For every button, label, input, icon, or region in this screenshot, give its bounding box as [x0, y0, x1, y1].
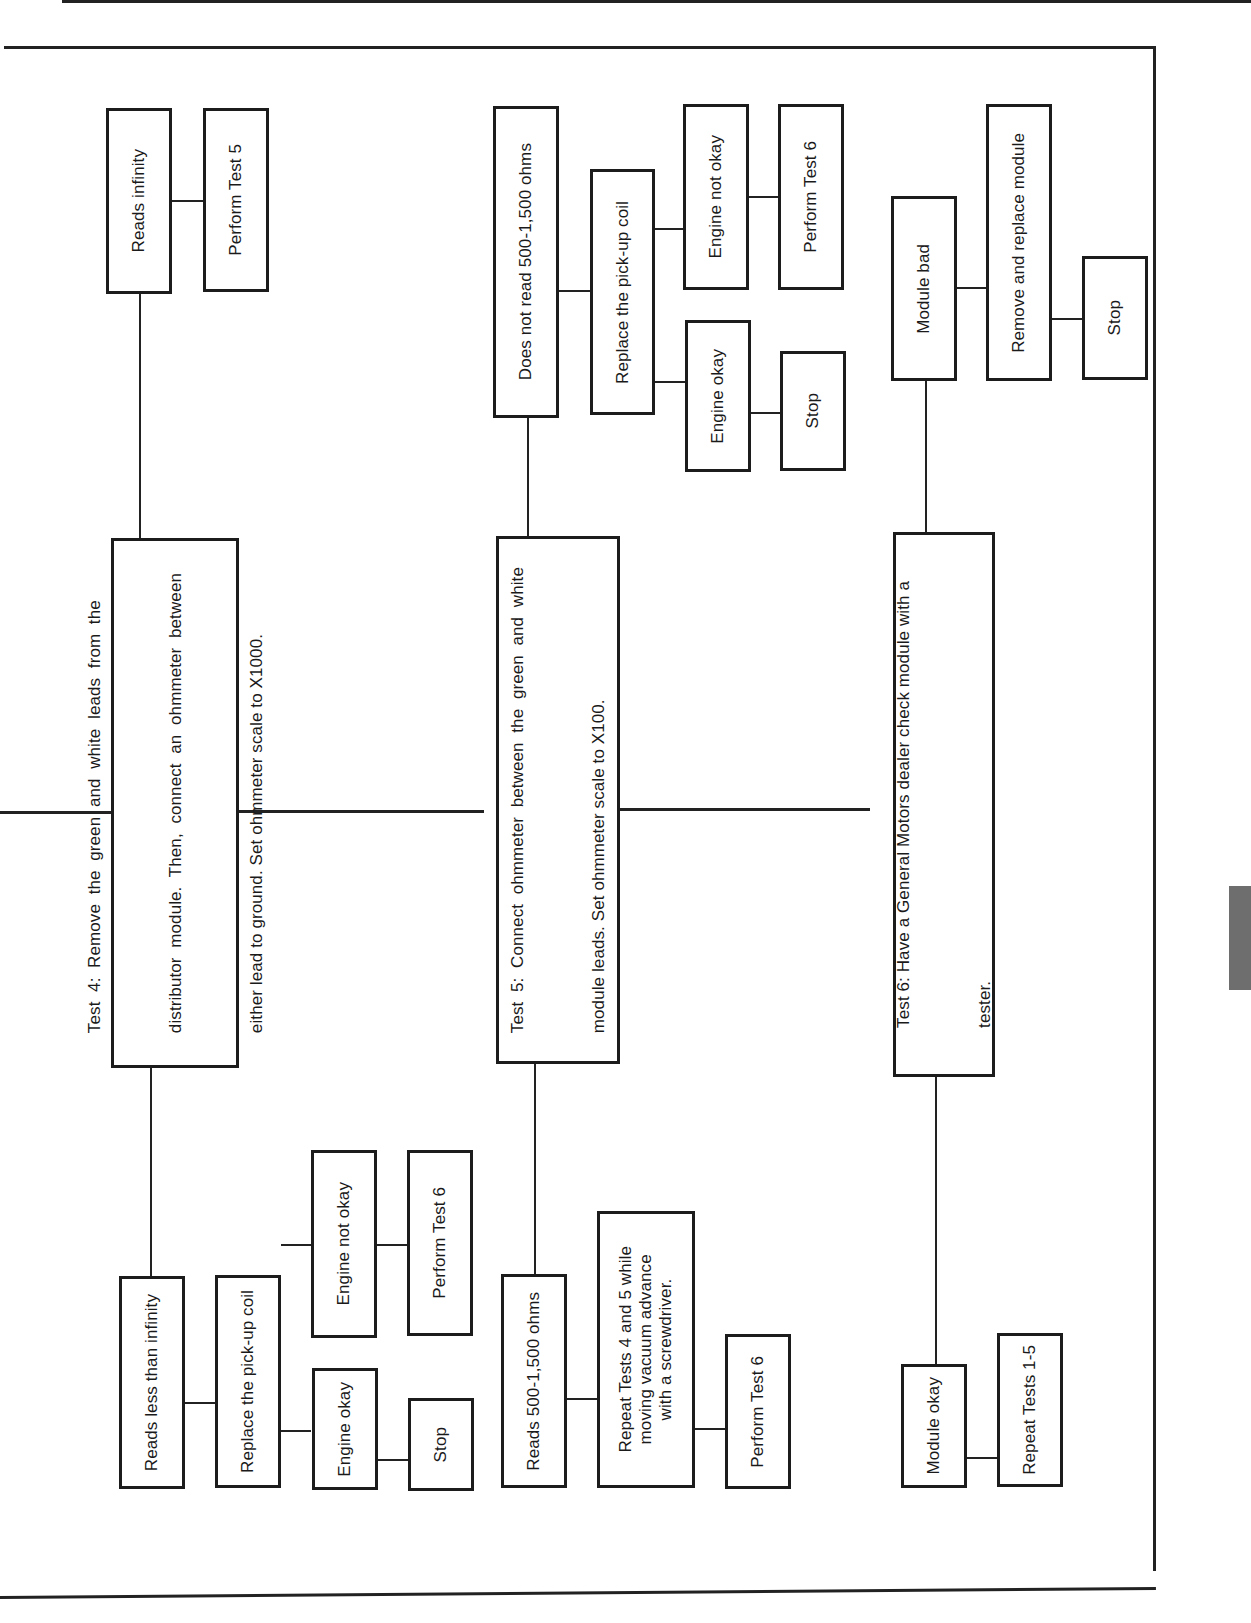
connector-engine-not-okay-perform6-1: [377, 1244, 407, 1246]
connector-test4-reads-less: [150, 1068, 152, 1276]
perform-test6-box-2: Perform Test 6: [778, 104, 844, 290]
test4-line-2: distributor module. Then, connect an ohm…: [162, 573, 189, 1033]
connector-module-okay-repeat: [967, 1457, 997, 1459]
test5-line-2: module leads. Set ohmmeter scale to X100…: [585, 567, 612, 1033]
does-not-read-label: Does not read 500-1,500 ohms: [513, 143, 539, 380]
engine-not-okay-box-2: Engine not okay: [683, 104, 749, 290]
replace-pickup-coil-box-2: Replace the pick-up coil: [590, 169, 655, 415]
repeat-tests-4-5-box: Repeat Tests 4 and 5 while moving vacuum…: [597, 1211, 695, 1488]
connector-does-not-read-replace: [559, 290, 590, 292]
connector-replace-engine-okay-1: [281, 1430, 311, 1432]
test4-line-1: Test 4: Remove the green and white leads…: [81, 573, 108, 1033]
connector-replace-engine-okay-2: [655, 381, 685, 383]
test6-box: Test 6: Have a General Motors dealer che…: [893, 532, 995, 1077]
test6-line-1: Test 6: Have a General Motors dealer che…: [890, 581, 917, 1028]
engine-not-okay-box-1: Engine not okay: [311, 1150, 377, 1338]
top-page-rule: [62, 0, 1251, 3]
perform-test5-label: Perform Test 5: [223, 144, 249, 256]
replace-pickup-coil-label-1: Replace the pick-up coil: [235, 1290, 261, 1473]
reads-ohms-box: Reads 500-1,500 ohms: [501, 1274, 567, 1488]
connector-remove-stop: [1052, 318, 1082, 320]
test5-box: Test 5: Connect ohmmeter between the gre…: [496, 536, 620, 1064]
reads-infinity-label: Reads infinity: [126, 149, 152, 252]
module-bad-box: Module bad: [891, 196, 957, 381]
frame-bottom-border: [0, 1587, 1156, 1599]
frame-right-border: [1153, 46, 1156, 1571]
connector-test5-does-not-read: [527, 416, 529, 536]
stop-label-3: Stop: [1102, 300, 1128, 335]
engine-okay-label-1: Engine okay: [332, 1382, 358, 1477]
replace-pickup-coil-box-1: Replace the pick-up coil: [215, 1275, 281, 1488]
engine-okay-box-1: Engine okay: [312, 1368, 378, 1490]
remove-replace-module-label: Remove and replace module: [1006, 133, 1032, 353]
perform-test6-label-2: Perform Test 6: [798, 141, 824, 253]
repeat-tests-line-2: moving vacuum advance: [636, 1246, 656, 1452]
perform-test6-label-1: Perform Test 6: [427, 1187, 453, 1299]
module-okay-label: Module okay: [921, 1377, 947, 1475]
engine-okay-box-2: Engine okay: [685, 320, 751, 472]
connector-engine-not-okay-perform6-2: [749, 196, 779, 198]
connector-replace-engine-not-okay-1: [281, 1244, 311, 1246]
stop-box-3: Stop: [1082, 256, 1148, 380]
engine-not-okay-label-1: Engine not okay: [331, 1182, 357, 1305]
stop-box-2: Stop: [780, 351, 846, 471]
connector-test6-module-bad: [925, 380, 927, 532]
connector-reads-infinity-perform5: [172, 200, 203, 202]
connector-engine-okay-stop-2: [751, 412, 781, 414]
connector-test4-reads-infinity: [139, 292, 141, 538]
thumb-index-tab: [1229, 886, 1251, 990]
repeat-tests-1-5-label: Repeat Tests 1-5: [1017, 1345, 1043, 1475]
perform-test5-box: Perform Test 5: [203, 108, 269, 292]
frame-top-border: [4, 46, 1154, 49]
perform-test6-label-3: Perform Test 6: [745, 1356, 771, 1468]
reads-less-than-infinity-box: Reads less than infinity: [119, 1276, 185, 1489]
connector-reads-less-replace: [185, 1402, 215, 1404]
module-bad-label: Module bad: [911, 244, 937, 334]
remove-replace-module-box: Remove and replace module: [986, 104, 1052, 381]
connector-test5-reads-ohms: [534, 1064, 536, 1276]
perform-test6-box-3: Perform Test 6: [725, 1334, 791, 1489]
engine-not-okay-label-2: Engine not okay: [703, 135, 729, 258]
reads-less-than-infinity-label: Reads less than infinity: [139, 1294, 165, 1471]
engine-okay-label-2: Engine okay: [705, 349, 731, 444]
stop-label-1: Stop: [428, 1427, 454, 1462]
test5-line-1: Test 5: Connect ohmmeter between the gre…: [504, 567, 531, 1033]
connector-repeat-perform6-3: [695, 1428, 725, 1430]
perform-test6-box-1: Perform Test 6: [407, 1150, 473, 1336]
test6-line-2: tester.: [971, 581, 998, 1028]
reads-ohms-label: Reads 500-1,500 ohms: [521, 1292, 547, 1471]
connector-module-bad-remove: [957, 287, 987, 289]
connector-test6-module-okay: [935, 1077, 937, 1366]
stop-box-1: Stop: [408, 1398, 474, 1491]
connector-replace-engine-not-okay-2: [655, 228, 685, 230]
repeat-tests-1-5-box: Repeat Tests 1-5: [997, 1333, 1063, 1487]
test4-box: Test 4: Remove the green and white leads…: [111, 538, 239, 1068]
stop-label-2: Stop: [800, 393, 826, 428]
connector-engine-okay-stop-1: [378, 1459, 408, 1461]
reads-infinity-box: Reads infinity: [106, 108, 172, 294]
connector-reads-ohms-repeat: [567, 1398, 597, 1400]
repeat-tests-line-3: with a screwdriver.: [656, 1246, 676, 1452]
module-okay-box: Module okay: [901, 1364, 967, 1488]
replace-pickup-coil-label-2: Replace the pick-up coil: [610, 201, 636, 384]
repeat-tests-line-1: Repeat Tests 4 and 5 while: [616, 1246, 636, 1452]
test4-line-3: either lead to ground. Set ohmmeter scal…: [243, 573, 270, 1033]
does-not-read-box: Does not read 500-1,500 ohms: [493, 106, 559, 418]
